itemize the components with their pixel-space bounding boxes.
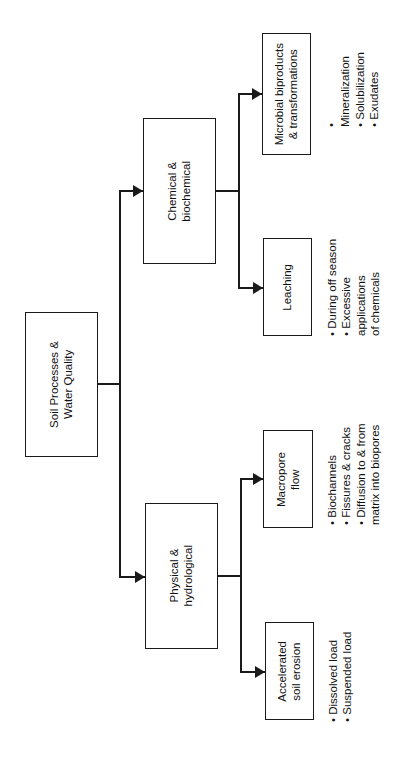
connector-physical-fork xyxy=(240,478,242,672)
bullet-item: • Solubilization xyxy=(353,52,367,127)
bullet-item: • Fissures & cracks xyxy=(339,420,353,525)
connector-chemical-fork xyxy=(238,93,240,288)
bullet-list-erosion: • Dissolved load • Suspended load xyxy=(326,630,355,722)
bullet-item: • Biochannels xyxy=(325,420,339,525)
bullet-item: • During off season xyxy=(325,218,339,336)
connector-physical-stem xyxy=(217,575,240,577)
bullet-item: • Suspended load xyxy=(340,630,354,722)
bullet-item: • Diffusion to & from matrix into biopor… xyxy=(354,420,383,525)
bullet-item: • Excessive applications of chemicals xyxy=(339,218,382,336)
arrow-head-icon xyxy=(135,571,145,583)
branch-label-physical: Physical & hydrological xyxy=(167,545,196,606)
leaf-node-macropore: Macropore flow xyxy=(263,430,313,528)
leaf-node-leaching: Leaching xyxy=(263,238,312,336)
leaf-label-erosion: Accelerated soil erosion xyxy=(275,641,304,702)
arrow-head-icon xyxy=(253,473,263,485)
branch-node-physical: Physical & hydrological xyxy=(145,503,218,649)
bullet-item: • Exudates xyxy=(367,52,381,127)
root-node: Soil Processes & Water Quality xyxy=(25,312,98,457)
connector-trunk xyxy=(119,190,121,577)
connector-chemical-stem xyxy=(215,190,238,192)
leaf-node-erosion: Accelerated soil erosion xyxy=(265,622,314,720)
bullet-list-macropore: • Biochannels • Fissures & cracks • Diff… xyxy=(325,420,383,525)
leaf-label-leaching: Leaching xyxy=(280,264,294,311)
arrow-head-icon xyxy=(252,88,262,100)
branch-node-chemical: Chemical & biochemical xyxy=(143,118,216,264)
bullet-item: • Mineralization xyxy=(324,52,353,127)
leaf-node-microbial: Microbial biproducts & transformations xyxy=(262,33,311,155)
arrow-head-icon xyxy=(133,185,143,197)
bullet-list-leaching: • During off season • Excessive applicat… xyxy=(325,218,383,336)
root-node-label: Soil Processes & Water Quality xyxy=(47,341,76,428)
arrow-head-icon xyxy=(253,282,263,294)
branch-label-chemical: Chemical & biochemical xyxy=(165,161,194,222)
arrow-head-icon xyxy=(255,666,265,678)
leaf-label-microbial: Microbial biproducts & transformations xyxy=(272,43,301,145)
bullet-list-microbial: • Mineralization • Solubilization • Exud… xyxy=(324,52,382,127)
leaf-label-macropore: Macropore flow xyxy=(274,452,303,507)
bullet-item: • Dissolved load xyxy=(326,630,340,722)
connector-root-stem xyxy=(97,383,119,385)
